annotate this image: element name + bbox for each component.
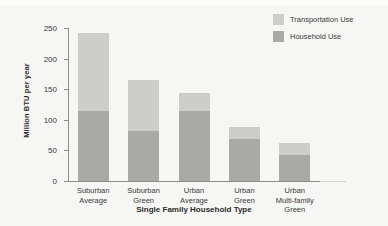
x-axis-category-label: Suburban Green [115,186,173,205]
bar-segment-transportation [179,93,210,111]
bar-segment-household [128,131,159,181]
bar-segment-transportation [78,33,109,111]
x-axis-category-label: Suburban Average [64,186,122,205]
bar-group: Urban Multi-family Green [279,143,310,181]
x-axis-category-label: Urban Green [215,186,273,205]
bar-segment-household [229,139,260,181]
bar-segment-household [78,111,109,181]
bar-segment-transportation [229,127,260,140]
y-axis-tick-label: 150 [44,85,57,94]
bar-segment-transportation [279,143,310,155]
bar-group: Urban Green [229,127,260,181]
y-axis-tick-label: 50 [48,146,57,155]
y-axis-tick: 50 [64,150,68,151]
x-axis-title: Single Family Household Type [0,205,388,214]
y-axis-tick-label: 200 [44,54,57,63]
bar-group: Suburban Average [78,33,109,181]
top-edge-band [0,0,388,5]
y-axis-tick-label: 100 [44,115,57,124]
x-axis-line-extension [320,181,346,182]
x-axis-line [68,181,320,182]
y-axis-tick-label: 0 [53,177,57,186]
x-axis-category-label: Urban Average [165,186,223,205]
y-axis-tick: 200 [64,59,68,60]
plot-area: 050100150200250 Suburban AverageSuburban… [68,28,320,182]
bar-segment-transportation [128,80,159,131]
y-axis-tick: 100 [64,120,68,121]
bar-group: Urban Average [179,93,210,181]
chart-legend: Transportation UseHousehold Use [273,14,354,48]
y-axis-tick: 150 [64,89,68,90]
y-axis-tick: 0 [64,181,68,182]
bar-segment-household [179,111,210,181]
legend-item: Transportation Use [273,14,354,25]
legend-swatch [273,14,284,25]
y-axis-title: Million BTU per year [22,31,31,171]
legend-swatch [273,31,284,42]
legend-label: Transportation Use [290,15,354,24]
bar-segment-household [279,155,310,181]
legend-item: Household Use [273,31,354,42]
legend-label: Household Use [290,32,341,41]
y-axis-tick-label: 250 [44,24,57,33]
y-axis-tick: 250 [64,28,68,29]
chart-figure: Million BTU per year 050100150200250 Sub… [0,0,388,226]
bar-group: Suburban Green [128,80,159,181]
y-axis-line [68,28,69,182]
